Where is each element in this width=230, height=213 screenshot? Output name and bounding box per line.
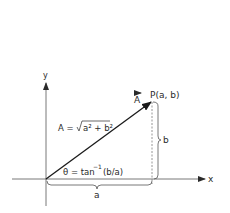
- angle-argument: (b/a): [103, 167, 123, 177]
- magnitude-formula: A = a² + b²: [58, 121, 113, 133]
- brace-a: [47, 181, 152, 189]
- y-axis-label: y: [43, 71, 48, 80]
- vector-name-label: A: [134, 95, 141, 105]
- component-b-label: b: [163, 135, 169, 145]
- angle-superscript: −1: [93, 163, 102, 170]
- magnitude-prefix: A =: [58, 123, 76, 133]
- angle-prefix: θ = tan: [63, 167, 95, 177]
- x-axis-label: x: [208, 174, 214, 184]
- vector-diagram: x y b a P(a, b) A A = a² + b² θ = tan −1…: [0, 0, 230, 213]
- component-a-label: a: [94, 190, 100, 200]
- brace-b: [153, 102, 161, 179]
- magnitude-radicand: a² + b²: [83, 123, 113, 133]
- point-label: P(a, b): [150, 90, 179, 100]
- angle-formula: θ = tan −1 (b/a): [63, 163, 123, 177]
